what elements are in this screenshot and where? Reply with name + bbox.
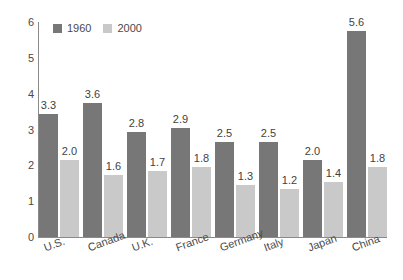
x-axis-category-labels: U.S.CanadaU.K.FranceGermanyItalyJapanChi… xyxy=(38,238,390,280)
bar-value-label: 1.6 xyxy=(106,161,121,172)
bar-canada-1960[interactable]: 3.6 xyxy=(83,103,102,237)
bar-group: 5.61.8 xyxy=(346,22,390,237)
bar-uk-1960[interactable]: 2.8 xyxy=(127,132,146,237)
y-axis-tick-label: 4 xyxy=(12,89,34,100)
bar-group: 2.91.8 xyxy=(170,22,214,237)
bar-chart: 6543210 19602000 3.32.03.61.62.81.72.91.… xyxy=(0,0,403,280)
bar-value-label: 2.5 xyxy=(217,128,232,139)
bar-canada-2000[interactable]: 1.6 xyxy=(104,175,123,237)
bar-value-label: 2.5 xyxy=(261,128,276,139)
bar-japan-1960[interactable]: 2.0 xyxy=(303,160,322,237)
y-axis-tick-label: 2 xyxy=(12,160,34,171)
bar-value-label: 1.2 xyxy=(282,175,297,186)
bar-group: 2.81.7 xyxy=(126,22,170,237)
plot-area: 3.32.03.61.62.81.72.91.82.51.32.51.22.01… xyxy=(38,22,390,237)
bar-value-label: 3.6 xyxy=(85,89,100,100)
bar-value-label: 5.6 xyxy=(349,17,364,28)
bar-china-1960[interactable]: 5.6 xyxy=(347,31,366,237)
bar-value-label: 2.0 xyxy=(305,146,320,157)
bar-group: 3.61.6 xyxy=(82,22,126,237)
bar-france-1960[interactable]: 2.9 xyxy=(171,128,190,237)
y-axis-tick-label: 0 xyxy=(12,232,34,243)
y-axis-tick-labels: 6543210 xyxy=(8,0,34,280)
bar-value-label: 1.8 xyxy=(370,153,385,164)
bar-group: 2.01.4 xyxy=(302,22,346,237)
x-axis-label-italy: Italy xyxy=(262,235,285,253)
x-axis-label-uk: U.K. xyxy=(130,235,154,254)
bar-japan-2000[interactable]: 1.4 xyxy=(324,182,343,237)
y-axis-tick-label: 3 xyxy=(12,125,34,136)
y-axis-tick-label: 5 xyxy=(12,53,34,64)
y-axis-tick-label: 6 xyxy=(12,17,34,28)
bar-value-label: 2.8 xyxy=(129,118,144,129)
bar-france-2000[interactable]: 1.8 xyxy=(192,167,211,237)
bar-groups: 3.32.03.61.62.81.72.91.82.51.32.51.22.01… xyxy=(38,22,390,237)
bar-us-2000[interactable]: 2.0 xyxy=(60,160,79,237)
bar-germany-1960[interactable]: 2.5 xyxy=(215,142,234,237)
y-axis-tick-label: 1 xyxy=(12,196,34,207)
bar-us-1960[interactable]: 3.3 xyxy=(39,114,58,237)
bar-value-label: 2.9 xyxy=(173,114,188,125)
bar-value-label: 1.3 xyxy=(238,171,253,182)
bar-value-label: 1.7 xyxy=(150,157,165,168)
bar-value-label: 3.3 xyxy=(41,100,56,111)
bar-value-label: 1.4 xyxy=(326,168,341,179)
x-axis-label-us: U.S. xyxy=(42,235,66,254)
bar-china-2000[interactable]: 1.8 xyxy=(368,167,387,237)
bar-group: 2.51.2 xyxy=(258,22,302,237)
bar-italy-2000[interactable]: 1.2 xyxy=(280,189,299,237)
bar-value-label: 2.0 xyxy=(62,146,77,157)
bar-group: 2.51.3 xyxy=(214,22,258,237)
bar-group: 3.32.0 xyxy=(38,22,82,237)
bar-italy-1960[interactable]: 2.5 xyxy=(259,142,278,237)
bar-value-label: 1.8 xyxy=(194,153,209,164)
bar-uk-2000[interactable]: 1.7 xyxy=(148,171,167,237)
